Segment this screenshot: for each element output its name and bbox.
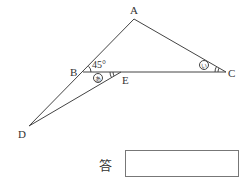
angle-label-45: 45° [92, 59, 106, 70]
segment-AC [134, 19, 226, 72]
angle-arc-E [113, 72, 114, 76]
angle-arc-C [218, 68, 219, 72]
angle-tick-C [215, 67, 217, 73]
angle-label-i: い [201, 62, 207, 69]
answer-box[interactable] [125, 150, 239, 177]
point-label-C: C [228, 67, 235, 79]
angle-tick-E [110, 72, 112, 78]
angle-arc-B [89, 66, 91, 72]
angle-label-a: あ [95, 75, 101, 82]
point-label-B: B [70, 66, 77, 78]
point-label-D: D [18, 128, 26, 140]
segment-DE [29, 72, 121, 126]
answer-label: 答 [99, 155, 112, 174]
point-label-A: A [130, 4, 138, 16]
point-label-E: E [122, 74, 129, 86]
